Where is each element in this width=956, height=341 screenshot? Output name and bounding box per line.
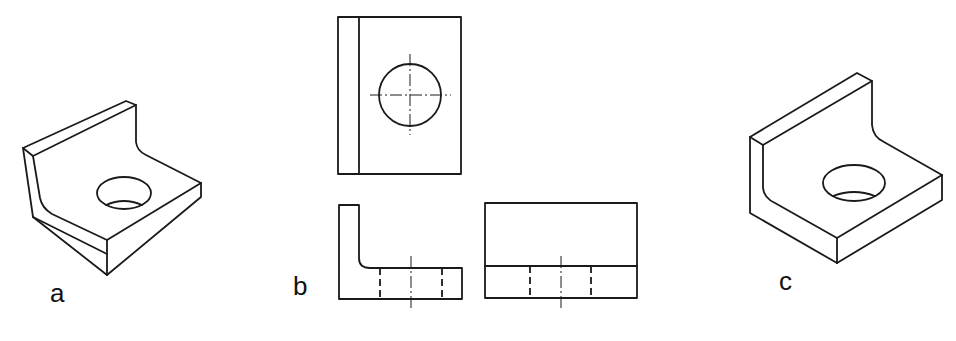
figure-b-orthographic: b (293, 17, 637, 309)
label-b: b (293, 271, 307, 301)
side-view (485, 203, 637, 308)
drawing-canvas: a b (0, 0, 956, 341)
figure-a-isometric: a (23, 101, 201, 308)
front-view (339, 205, 462, 309)
figure-c-isometric: c (750, 73, 942, 296)
label-a: a (50, 278, 65, 308)
top-view (338, 17, 461, 174)
label-c: c (779, 266, 792, 296)
